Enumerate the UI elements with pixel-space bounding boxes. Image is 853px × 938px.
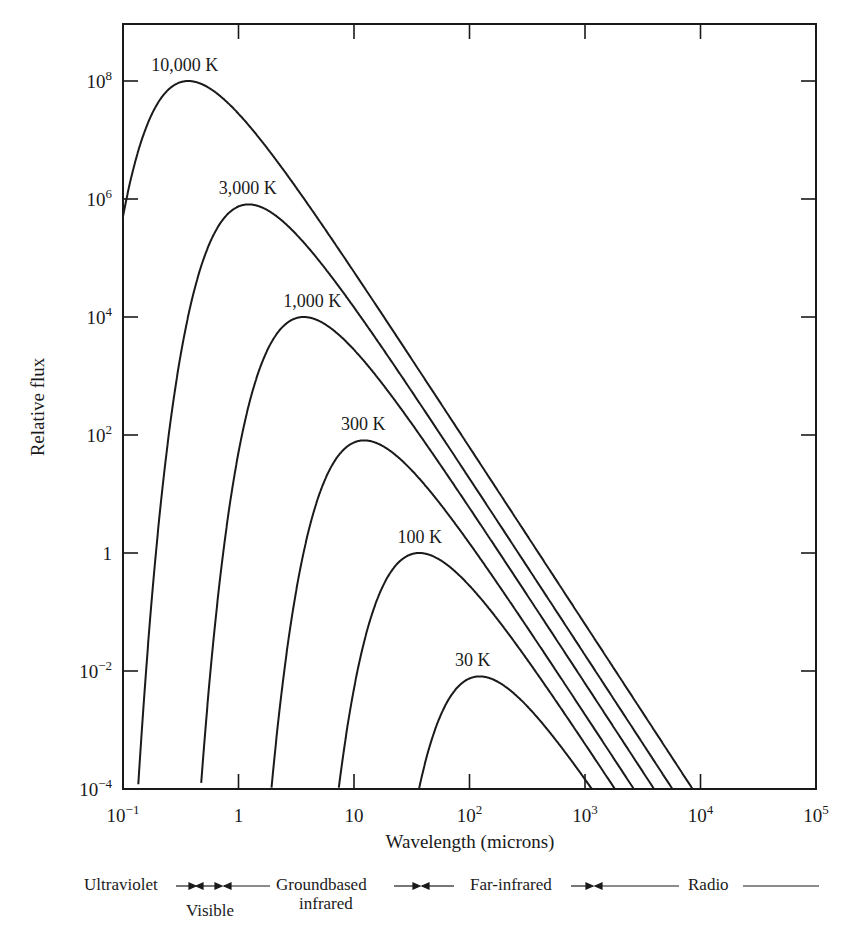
curve-3000k: [138, 204, 673, 789]
y-axis-label: Relative flux: [27, 357, 48, 456]
band-radio-line: [741, 880, 821, 892]
curve-1000k: [201, 317, 654, 789]
x-tick-label: 104: [688, 802, 714, 826]
curve-label-3000k: 3,000 K: [219, 178, 277, 198]
y-tick-label: 10−2: [79, 658, 112, 682]
x-tick-label: 105: [803, 802, 829, 826]
y-tick-label: 108: [87, 68, 113, 92]
curve-label-30k: 30 K: [455, 650, 491, 670]
x-tick-label: 1: [234, 805, 244, 826]
y-tick-label: 102: [87, 422, 113, 446]
blackbody-chart: 10−111010210310410510−410−21102104106108…: [0, 0, 853, 870]
plot-frame: [123, 24, 816, 789]
x-axis-label: Wavelength (microns): [386, 831, 555, 853]
axis-tick-labels: 10−111010210310410510−410−21102104106108: [79, 68, 829, 826]
spectral-bands: Ultraviolet Visible Groundbased infrared…: [0, 870, 853, 930]
y-tick-label: 106: [87, 186, 113, 210]
band-groundbased-infrared-line1: Groundbased: [276, 876, 367, 894]
x-tick-label: 103: [572, 802, 598, 826]
x-tick-label: 10−1: [107, 802, 140, 826]
curve-label-100k: 100 K: [397, 527, 442, 547]
band-far-infrared: Far-infrared: [470, 876, 552, 894]
curve-30k: [419, 676, 592, 789]
y-tick-label: 1: [103, 543, 113, 564]
curve-label-10000k: 10,000 K: [151, 55, 218, 75]
x-tick-label: 102: [457, 802, 483, 826]
band-ultraviolet: Ultraviolet: [84, 876, 158, 894]
curve-label-1000k: 1,000 K: [283, 291, 341, 311]
band-visible: Visible: [186, 902, 234, 920]
band-groundbased-infrared-line2: infrared: [299, 895, 353, 913]
band-arrows-left: [174, 880, 272, 892]
curve-labels: 10,000 K3,000 K1,000 K300 K100 K30 K: [151, 55, 490, 670]
curve-100k: [339, 553, 615, 789]
curve-label-300k: 300 K: [341, 414, 386, 434]
y-tick-label: 104: [87, 304, 113, 328]
band-arrows-right: [569, 880, 681, 892]
x-tick-label: 10: [345, 805, 364, 826]
curves: [123, 81, 693, 789]
band-radio: Radio: [688, 876, 729, 894]
band-arrows-mid: [392, 880, 462, 892]
axis-ticks: [123, 24, 816, 789]
y-tick-label: 10−4: [79, 776, 112, 800]
